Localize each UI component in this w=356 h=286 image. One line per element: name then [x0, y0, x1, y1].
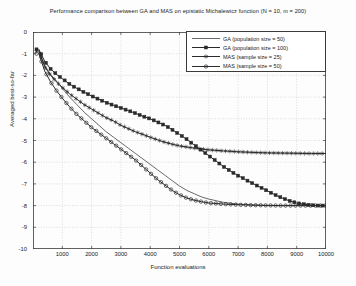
legend-label: GA (population size = 100): [223, 45, 288, 51]
data-marker: [92, 108, 96, 112]
data-marker: [129, 110, 132, 113]
y-tick-label: -10: [5, 246, 27, 252]
data-marker: [58, 75, 61, 78]
data-marker: [118, 123, 122, 127]
series-0: [39, 50, 326, 205]
data-marker: [204, 152, 207, 155]
x-tick-label: 5000: [165, 251, 195, 257]
data-marker: [162, 123, 165, 126]
data-marker: [208, 155, 211, 158]
data-marker: [152, 119, 155, 122]
data-marker: [143, 115, 146, 118]
y-tick-label: -2: [5, 72, 27, 78]
data-marker: [279, 196, 282, 199]
legend-swatch: [191, 34, 221, 43]
x-tick-label: 4000: [135, 251, 165, 257]
data-marker: [180, 135, 183, 138]
data-marker: [283, 198, 286, 201]
data-marker: [269, 191, 272, 194]
data-marker: [260, 186, 263, 189]
legend-item: MAS (sample size = 25): [187, 52, 325, 61]
data-marker: [123, 125, 127, 129]
data-marker: [185, 138, 188, 141]
data-marker: [105, 101, 108, 104]
legend-item: MAS (sample size = 50): [187, 62, 325, 71]
data-marker: [101, 113, 105, 117]
data-marker: [293, 201, 296, 204]
data-marker: [114, 120, 118, 124]
data-marker: [109, 118, 113, 122]
y-tick-label: -8: [5, 203, 27, 209]
data-marker: [223, 165, 226, 168]
data-marker: [148, 117, 151, 120]
series-line: [39, 49, 326, 205]
x-tick-label: 7000: [223, 251, 253, 257]
y-tick-label: -3: [5, 94, 27, 100]
legend-item: GA (population size = 50): [187, 34, 325, 43]
data-marker: [232, 171, 235, 174]
data-marker: [131, 129, 135, 133]
data-marker: [54, 72, 57, 75]
legend-item: GA (population size = 100): [187, 43, 325, 52]
x-tick-label: 3000: [106, 251, 136, 257]
legend-label: MAS (sample size = 50): [223, 63, 282, 69]
x-tick-label: 1000: [47, 251, 77, 257]
data-marker: [274, 194, 277, 197]
data-marker: [82, 90, 85, 93]
figure-container: Performance comparison between GA and MA…: [0, 0, 356, 286]
data-marker: [246, 179, 249, 182]
y-tick-label: -1: [5, 51, 27, 57]
data-marker: [166, 126, 169, 129]
series-3: [35, 52, 326, 207]
legend-swatch: [191, 43, 221, 52]
data-marker: [101, 99, 104, 102]
data-marker: [96, 97, 99, 100]
data-marker: [241, 177, 244, 180]
legend-swatch: [191, 62, 221, 71]
data-marker: [63, 79, 66, 82]
data-marker: [44, 61, 47, 64]
series-line: [39, 54, 326, 206]
data-marker: [105, 116, 109, 120]
x-tick-label: 2000: [77, 251, 107, 257]
data-marker: [288, 199, 291, 202]
x-tick-label: 8000: [252, 251, 282, 257]
data-marker: [227, 168, 230, 171]
data-marker: [110, 103, 113, 106]
y-tick-label: 0: [5, 29, 27, 35]
data-marker: [218, 162, 221, 165]
data-marker: [124, 108, 127, 111]
legend-swatch: [191, 52, 221, 61]
data-marker: [87, 105, 91, 109]
series-line: [39, 50, 326, 205]
data-marker: [49, 67, 52, 70]
data-marker: [77, 88, 80, 91]
legend-label: GA (population size = 50): [223, 36, 285, 42]
x-tick-label: 6000: [194, 251, 224, 257]
y-tick-label: -5: [5, 138, 27, 144]
data-marker: [73, 85, 76, 88]
data-marker: [205, 46, 208, 49]
data-marker: [255, 184, 258, 187]
data-marker: [157, 121, 160, 124]
data-marker: [91, 95, 94, 98]
data-marker: [119, 106, 122, 109]
y-tick-label: -7: [5, 181, 27, 187]
data-marker: [171, 128, 174, 131]
data-marker: [190, 141, 193, 144]
chart-legend: GA (population size = 50)GA (population …: [186, 31, 326, 72]
data-marker: [213, 159, 216, 162]
data-marker: [237, 174, 240, 177]
data-marker: [115, 105, 118, 108]
data-marker: [68, 82, 71, 85]
data-marker: [251, 182, 254, 185]
x-axis-label: Function evaluations: [0, 264, 356, 270]
data-marker: [265, 189, 268, 192]
x-tick-label: 10000: [311, 251, 341, 257]
legend-label: MAS (sample size = 25): [223, 54, 282, 60]
data-marker: [83, 103, 87, 107]
y-tick-label: -6: [5, 159, 27, 165]
data-marker: [127, 127, 131, 131]
data-marker: [96, 111, 100, 115]
y-tick-label: -4: [5, 116, 27, 122]
